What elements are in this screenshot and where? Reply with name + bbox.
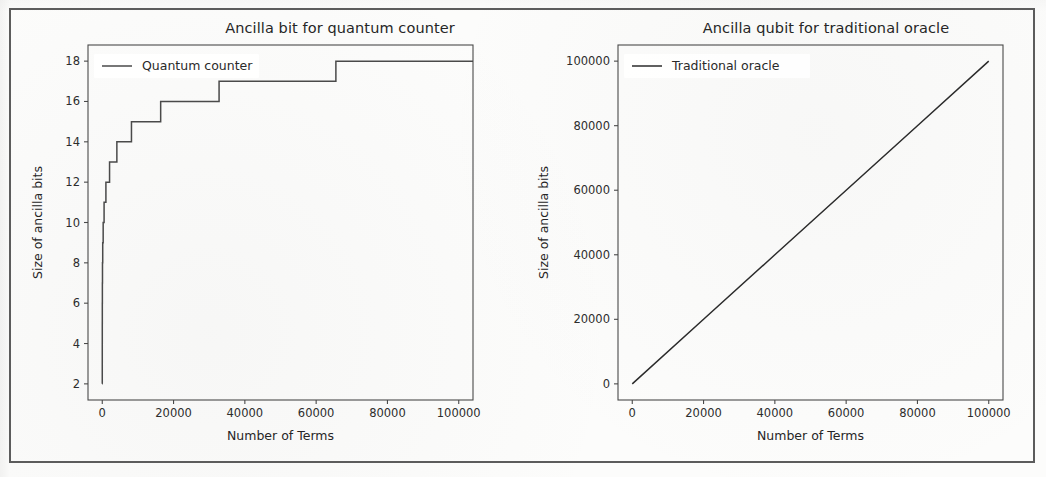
y-tick-label: 10 [65,216,80,230]
x-tick-label: 40000 [227,406,264,420]
x-tick-label: 20000 [155,406,192,420]
y-axis-label: Size of ancilla bits [30,166,45,279]
y-tick-label: 8 [73,256,80,270]
y-tick-label: 18 [65,54,80,68]
y-tick-label: 20000 [573,312,610,326]
y-axis-label: Size of ancilla bits [536,166,551,279]
x-tick-label: 100000 [967,406,1011,420]
x-axis-label: Number of Terms [757,428,864,443]
x-tick-label: 60000 [828,406,865,420]
figure-page: Ancilla bit for quantum counter 02000040… [0,0,1046,477]
x-tick-label: 0 [629,406,636,420]
plot-area-left: 0200004000060000800001000002468101214161… [18,0,518,477]
y-tick-label: 60000 [573,183,610,197]
legend-label: Traditional oracle [671,58,780,73]
chart-traditional-oracle: Ancilla qubit for traditional oracle 020… [510,0,1030,477]
y-tick-label: 100000 [566,54,610,68]
legend-label: Quantum counter [142,58,253,73]
x-tick-label: 20000 [685,406,722,420]
x-axis-label: Number of Terms [227,428,334,443]
y-tick-label: 0 [603,377,610,391]
y-tick-label: 6 [73,296,80,310]
x-tick-label: 100000 [437,406,481,420]
y-tick-label: 16 [65,94,80,108]
y-tick-label: 2 [73,377,80,391]
x-tick-label: 80000 [369,406,406,420]
x-tick-label: 0 [99,406,106,420]
y-tick-label: 12 [65,175,80,189]
y-tick-label: 4 [73,337,80,351]
y-tick-label: 40000 [573,248,610,262]
x-tick-label: 80000 [899,406,936,420]
series-line-traditional-oracle [632,61,988,384]
plot-area-right: 0200004000060000800001000000200004000060… [510,0,1030,477]
x-tick-label: 60000 [298,406,335,420]
x-tick-label: 40000 [757,406,794,420]
series-line-quantum-counter [102,61,473,384]
y-tick-label: 80000 [573,119,610,133]
chart-quantum-counter: Ancilla bit for quantum counter 02000040… [18,0,518,477]
y-tick-label: 14 [65,135,80,149]
